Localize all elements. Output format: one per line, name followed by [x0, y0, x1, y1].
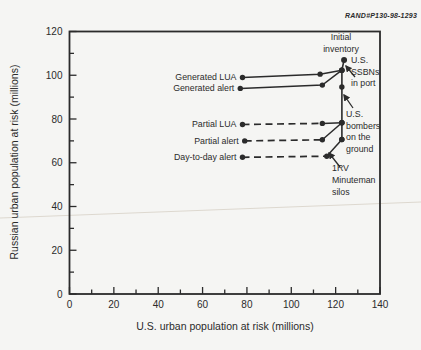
- series-label-partial-lua: Partial LUA: [192, 119, 237, 129]
- series-line-partial-alert-solid: [322, 123, 342, 140]
- y-tick-label: 80: [51, 114, 63, 125]
- y-tick-label: 120: [46, 26, 63, 37]
- annotation-us-bombers-on-the-ground: bombers: [346, 121, 381, 131]
- y-axis-title: Russian urban population at risk (millio…: [8, 65, 20, 260]
- x-tick-label: 80: [241, 299, 253, 310]
- series-line-partial-lua-dashed: [243, 123, 323, 124]
- series-line-partial-alert-dashed: [245, 140, 323, 141]
- annotation-us-bombers-on-the-ground: ground: [346, 144, 373, 154]
- annotation-1rv-minuteman-silos: silos: [332, 187, 350, 197]
- inventory-chain-point: [339, 68, 344, 73]
- annotation-us-bombers-on-the-ground: on the: [346, 132, 371, 142]
- series-label-partial-alert: Partial alert: [194, 136, 239, 146]
- inventory-chain-point: [341, 57, 347, 63]
- x-tick-label: 100: [283, 299, 300, 310]
- x-tick-label: 120: [327, 299, 344, 310]
- y-tick-label: 60: [51, 157, 63, 168]
- chart-canvas: 020406080100120140020406080100120Generat…: [0, 0, 421, 350]
- series-line-day-to-day-alert-dashed: [243, 156, 327, 157]
- data-point-partial-lua: [240, 122, 245, 127]
- inventory-chain-point: [339, 120, 344, 125]
- data-point-generated-alert: [238, 86, 243, 91]
- annotation-us-bombers-on-the-ground: U.S.: [346, 109, 363, 119]
- data-point-day-to-day-alert: [240, 155, 245, 160]
- series-label-generated-alert: Generated alert: [173, 83, 235, 93]
- data-point-partial-lua: [320, 121, 325, 126]
- x-axis-title: U.S. urban population at risk (millions): [136, 320, 313, 332]
- inventory-chain-point: [339, 137, 344, 142]
- x-tick-label: 20: [108, 299, 120, 310]
- y-tick-label: 20: [51, 245, 63, 256]
- annotation-1rv-minuteman-silos: Minuteman: [332, 175, 376, 185]
- scan-crease: [0, 202, 421, 218]
- annotation-us-ssbns-in-port: U.S.: [351, 55, 368, 65]
- data-point-generated-lua: [317, 71, 322, 76]
- figure-page: RAND#P130-98-1293 0204060801001201400204…: [0, 0, 421, 350]
- series-line-partial-lua-solid: [322, 123, 342, 124]
- data-point-generated-alert: [320, 82, 325, 87]
- y-tick-label: 100: [46, 70, 63, 81]
- data-point-generated-lua: [240, 75, 245, 80]
- inventory-chain-point: [339, 84, 344, 89]
- data-point-partial-alert: [320, 137, 325, 142]
- annotation-1rv-minuteman-silos: 1RV: [332, 163, 349, 173]
- annotation-initial-inventory: Initial: [331, 32, 352, 42]
- y-tick-label: 40: [51, 201, 63, 212]
- annotation-initial-inventory: inventory: [323, 44, 359, 54]
- x-tick-label: 0: [67, 299, 73, 310]
- data-point-partial-alert: [242, 138, 247, 143]
- data-point-day-to-day-alert: [324, 153, 329, 158]
- annotation-arrow-us-bombers-on-the-ground: [344, 95, 353, 108]
- annotation-us-ssbns-in-port: SSBNs: [351, 67, 380, 77]
- x-tick-label: 40: [153, 299, 165, 310]
- x-tick-label: 60: [197, 299, 209, 310]
- series-label-day-to-day-alert: Day-to-day alert: [174, 152, 237, 162]
- annotation-us-ssbns-in-port: in port: [351, 78, 376, 88]
- series-line-generated-lua: [243, 70, 342, 77]
- series-label-generated-lua: Generated LUA: [175, 72, 236, 82]
- y-tick-label: 0: [57, 289, 63, 300]
- x-tick-label: 140: [372, 299, 389, 310]
